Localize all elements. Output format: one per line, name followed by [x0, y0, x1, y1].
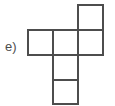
- square-top-right: [78, 5, 103, 30]
- square-column-lower: [53, 80, 78, 104]
- square-row-right: [78, 30, 103, 55]
- net-squares-group: [28, 5, 103, 104]
- figure-container: e): [0, 0, 115, 106]
- square-row-center: [53, 30, 78, 55]
- cube-net-diagram: [0, 0, 115, 106]
- square-row-left: [28, 30, 53, 55]
- square-column-upper: [53, 55, 78, 80]
